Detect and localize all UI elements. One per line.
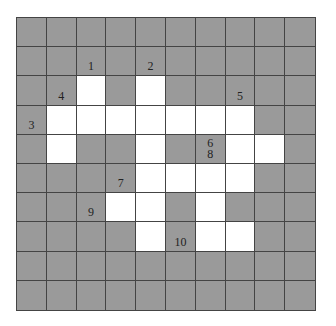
block-cell [226,281,256,310]
block-cell [166,193,196,222]
block-cell [136,281,166,310]
block-cell [255,193,285,222]
block-cell [77,164,107,193]
open-cell[interactable] [136,193,166,222]
block-cell [166,135,196,164]
block-cell [285,164,315,193]
block-cell [255,106,285,135]
block-cell [17,222,47,251]
block-cell: 9 [77,193,107,222]
open-cell[interactable] [196,164,226,193]
block-cell [77,135,107,164]
block-cell: 5 [226,76,256,105]
block-cell [47,252,77,281]
block-cell [255,252,285,281]
block-cell: 7 [106,164,136,193]
block-cell [47,18,77,47]
block-cell [166,47,196,76]
block-cell [285,47,315,76]
block-cell [17,18,47,47]
block-cell: 6 8 [196,135,226,164]
open-cell[interactable] [226,106,256,135]
block-cell [255,47,285,76]
block-cell [17,135,47,164]
block-cell [106,281,136,310]
open-cell[interactable] [226,222,256,251]
block-cell [17,252,47,281]
block-cell: 4 [47,76,77,105]
clue-number: 10 [166,237,195,248]
open-cell[interactable] [77,106,107,135]
block-cell [285,222,315,251]
block-cell: 2 [136,47,166,76]
clue-number: 3 [17,120,46,131]
block-cell [255,281,285,310]
block-cell [47,193,77,222]
block-cell [77,252,107,281]
block-cell: 10 [166,222,196,251]
block-cell [166,76,196,105]
clue-number: 1 [77,61,106,72]
open-cell[interactable] [136,222,166,251]
block-cell [17,281,47,310]
block-cell [255,164,285,193]
open-cell[interactable] [255,135,285,164]
open-cell[interactable] [226,135,256,164]
open-cell[interactable] [106,106,136,135]
open-cell[interactable] [166,106,196,135]
block-cell [77,222,107,251]
open-cell[interactable] [226,164,256,193]
block-cell [106,222,136,251]
clue-number: 6 8 [196,138,225,160]
block-cell [47,222,77,251]
block-cell [47,281,77,310]
block-cell [196,76,226,105]
block-cell [136,18,166,47]
block-cell [285,135,315,164]
clue-number: 9 [77,207,106,218]
open-cell[interactable] [196,222,226,251]
block-cell [106,47,136,76]
block-cell [106,18,136,47]
block-cell: 1 [77,47,107,76]
block-cell [166,18,196,47]
open-cell[interactable] [196,106,226,135]
open-cell[interactable] [77,76,107,105]
crossword-grid: 124536 87910 [16,17,316,311]
block-cell [285,281,315,310]
open-cell[interactable] [136,76,166,105]
open-cell[interactable] [136,135,166,164]
block-cell [136,252,166,281]
block-cell [226,47,256,76]
open-cell[interactable] [196,193,226,222]
open-cell[interactable] [47,106,77,135]
block-cell [285,193,315,222]
block-cell [196,47,226,76]
block-cell [285,252,315,281]
block-cell [77,18,107,47]
block-cell [106,76,136,105]
block-cell [196,18,226,47]
open-cell[interactable] [136,164,166,193]
open-cell[interactable] [106,193,136,222]
block-cell [77,281,107,310]
block-cell [255,222,285,251]
clue-number: 2 [136,61,165,72]
block-cell [196,281,226,310]
block-cell [255,76,285,105]
block-cell [226,193,256,222]
block-cell [106,252,136,281]
open-cell[interactable] [136,106,166,135]
block-cell [226,18,256,47]
block-cell [106,135,136,164]
block-cell [166,252,196,281]
block-cell [47,47,77,76]
block-cell [285,76,315,105]
block-cell [196,252,226,281]
clue-number: 7 [106,178,135,189]
block-cell [285,18,315,47]
clue-number: 5 [226,91,255,102]
block-cell [255,18,285,47]
open-cell[interactable] [47,135,77,164]
open-cell[interactable] [166,164,196,193]
